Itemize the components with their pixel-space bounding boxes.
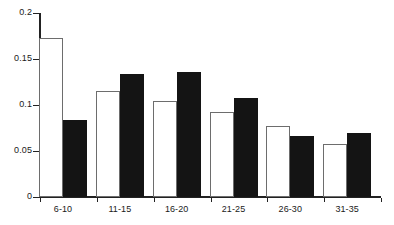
bar-solid-6-10 (63, 120, 87, 197)
bar-open-31-35 (323, 144, 347, 197)
bar-open-26-30 (266, 126, 290, 197)
x-tick-label-31-35: 31-35 (317, 204, 377, 214)
x-tick-label-21-25: 21-25 (204, 204, 264, 214)
x-tick-label-26-30: 26-30 (260, 204, 320, 214)
plot-area (0, 0, 394, 225)
x-tick-label-6-10: 6-10 (33, 204, 93, 214)
bar-open-11-15 (96, 91, 120, 197)
x-tick-label-11-15: 11-15 (90, 204, 150, 214)
bar-solid-21-25 (234, 98, 258, 197)
bar-open-16-20 (153, 101, 177, 197)
bar-solid-26-30 (290, 136, 314, 197)
bar-open-21-25 (210, 112, 234, 197)
x-tick-label-16-20: 16-20 (147, 204, 207, 214)
bar-solid-31-35 (347, 133, 371, 197)
bar-chart: 00.050.10.150.2 6-1011-1516-2021-2526-30… (0, 0, 394, 225)
bar-solid-11-15 (120, 74, 144, 197)
bar-open-6-10 (39, 38, 63, 197)
bar-solid-16-20 (177, 72, 201, 197)
